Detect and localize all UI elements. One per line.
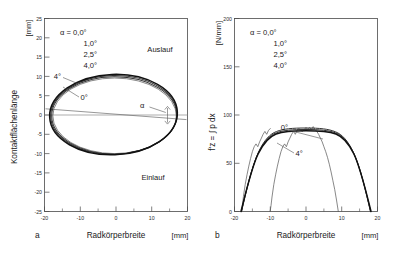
curve-b-alpha-0 bbox=[270, 127, 338, 212]
panel-b-y-ticks bbox=[235, 19, 240, 212]
y-tick-label: 50 bbox=[226, 160, 232, 166]
y-tick-label: 5 bbox=[39, 93, 42, 99]
curve-b-alpha-1 bbox=[242, 128, 371, 212]
panel-a-x-unit: [mm] bbox=[172, 231, 189, 240]
panel-b-legend: α = 0,0° 1,0° 2,5° 4,0° bbox=[250, 28, 287, 70]
y-tick-label: -20 bbox=[35, 189, 43, 195]
curve-label-0deg: 0° bbox=[81, 93, 88, 102]
x-tick-label: 10 bbox=[339, 215, 345, 221]
curve-b-alpha-2p5 bbox=[241, 130, 370, 212]
inflow-label: Einlauf bbox=[141, 173, 165, 182]
panel-b-xlabel: Radkörperbreite bbox=[277, 231, 336, 240]
panel-a-ylabel: Kontaktflächenlänge bbox=[10, 89, 19, 164]
curve-alpha-4 bbox=[48, 72, 179, 157]
y-tick-label: 100 bbox=[223, 112, 232, 118]
panel-b-y-unit: [N/mm] bbox=[214, 21, 223, 45]
legend-item: 2,5° bbox=[83, 50, 97, 59]
panel-a-x-ticks bbox=[45, 207, 188, 212]
y-tick-label: 200 bbox=[223, 16, 232, 22]
y-tick-label: 150 bbox=[223, 64, 232, 70]
panel-a-legend: α = 0,0° 1,0° 2,5° 4,0° bbox=[60, 28, 97, 70]
x-tick-label: 10 bbox=[149, 215, 155, 221]
load-distribution-curves bbox=[241, 127, 371, 212]
legend-item: 4,0° bbox=[273, 61, 287, 70]
panel-a-y-ticklabels: 25 20 15 10 5 0 -5 -10 -15 -20 -25 bbox=[35, 16, 43, 215]
panel-b-ylabel: f'z = ∫ p dx bbox=[208, 113, 217, 150]
figure-container: 25 20 15 10 5 0 -5 -10 -15 -20 -25 -20 bbox=[0, 0, 405, 255]
panel-a-label: a bbox=[35, 230, 40, 240]
y-tick-label: -5 bbox=[37, 131, 42, 137]
y-tick-label: 15 bbox=[36, 54, 42, 60]
legend-item: 1,0° bbox=[273, 39, 287, 48]
curve-label-b-4deg: 4° bbox=[296, 149, 303, 158]
angle-symbol-label: α bbox=[140, 101, 145, 110]
contact-patch-curves bbox=[48, 72, 179, 157]
legend-item: 1,0° bbox=[83, 39, 97, 48]
x-tick-label: -10 bbox=[267, 215, 275, 221]
panel-b-x-ticklabels: -20 -10 0 10 20 bbox=[231, 215, 381, 221]
y-tick-label: 10 bbox=[36, 74, 42, 80]
y-tick-label: -15 bbox=[35, 170, 43, 176]
angle-leader-line bbox=[150, 107, 166, 113]
panel-b-frame bbox=[235, 19, 378, 212]
outflow-label: Auslauf bbox=[147, 45, 173, 54]
legend-item: 2,5° bbox=[273, 50, 287, 59]
panel-b: 200 150 100 50 0 -20 -10 0 10 20 bbox=[208, 16, 381, 240]
x-tick-label: -20 bbox=[231, 215, 239, 221]
curve-label-4deg: 4° bbox=[54, 72, 61, 81]
x-tick-label: 0 bbox=[305, 215, 308, 221]
panel-b-x-unit: [mm] bbox=[362, 231, 379, 240]
x-tick-label: -10 bbox=[77, 215, 85, 221]
leader-4deg bbox=[63, 78, 78, 84]
panel-a-y-unit: [mm] bbox=[24, 20, 33, 37]
x-tick-label: 20 bbox=[375, 215, 381, 221]
x-tick-label: 20 bbox=[185, 215, 191, 221]
y-tick-label: 0 bbox=[39, 112, 42, 118]
tilted-axis-line bbox=[46, 109, 187, 120]
x-tick-label: -20 bbox=[41, 215, 49, 221]
panel-b-y-ticklabels: 200 150 100 50 0 bbox=[223, 16, 232, 215]
leader-b-4deg bbox=[277, 143, 294, 153]
legend-title: α = 0,0° bbox=[250, 28, 277, 37]
panel-a: 25 20 15 10 5 0 -5 -10 -15 -20 -25 -20 bbox=[10, 16, 191, 240]
curve-label-b-0deg: 0° bbox=[281, 123, 288, 132]
x-tick-label: 0 bbox=[115, 215, 118, 221]
y-tick-label: 25 bbox=[36, 16, 42, 22]
panel-b-label: b bbox=[215, 230, 220, 240]
y-tick-label: 20 bbox=[36, 35, 42, 41]
legend-item: 4,0° bbox=[83, 61, 97, 70]
panel-a-x-ticklabels: -20 -10 0 10 20 bbox=[41, 215, 191, 221]
figure-svg: 25 20 15 10 5 0 -5 -10 -15 -20 -25 -20 bbox=[0, 0, 405, 255]
y-tick-label: -10 bbox=[35, 151, 43, 157]
legend-title: α = 0,0° bbox=[60, 28, 87, 37]
panel-b-x-ticks bbox=[235, 207, 378, 212]
panel-a-xlabel: Radkörperbreite bbox=[87, 231, 146, 240]
curve-b-alpha-4 bbox=[241, 131, 371, 212]
